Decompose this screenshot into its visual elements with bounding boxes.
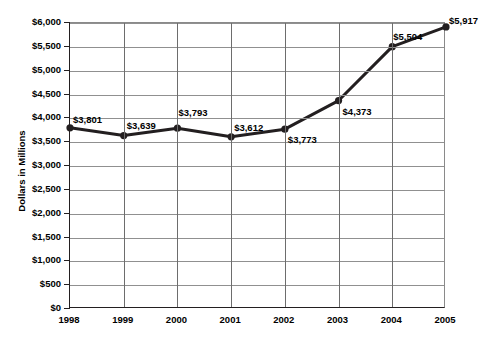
y-axis-tick-mark	[64, 284, 70, 285]
y-axis-tick-label: $2,500	[3, 183, 61, 194]
data-point-label: $3,801	[73, 114, 102, 125]
data-point-label: $3,612	[234, 122, 263, 133]
line-chart: Dollars in Millions $0$500$1,000$1,500$2…	[0, 0, 486, 342]
y-gridline	[70, 71, 444, 72]
y-gridline	[70, 261, 444, 262]
data-point-label: $5,504	[393, 31, 422, 42]
y-axis-tick-mark	[64, 213, 70, 214]
y-axis-tick-mark	[64, 46, 70, 47]
x-axis-tick-label: 2005	[420, 314, 470, 325]
x-gridline	[392, 23, 393, 307]
y-gridline	[70, 47, 444, 48]
y-axis-tick-mark	[64, 117, 70, 118]
y-gridline	[70, 166, 444, 167]
y-axis-tick-label: $500	[3, 278, 61, 289]
x-gridline	[231, 23, 232, 307]
data-point-label: $4,373	[343, 106, 372, 117]
y-axis-tick-label: $0	[3, 302, 61, 313]
y-axis-tick-mark	[64, 94, 70, 95]
y-axis-tick-label: $3,500	[3, 135, 61, 146]
y-gridline	[70, 190, 444, 191]
y-gridline	[70, 23, 444, 24]
x-axis-tick-label: 1998	[44, 314, 94, 325]
y-axis-tick-mark	[64, 260, 70, 261]
y-axis-tick-mark	[64, 22, 70, 23]
y-axis-tick-mark	[64, 70, 70, 71]
y-axis-tick-mark	[64, 189, 70, 190]
y-axis-tick-label: $5,500	[3, 40, 61, 51]
y-axis-tick-label: $5,000	[3, 64, 61, 75]
y-axis-tick-label: $2,000	[3, 207, 61, 218]
x-gridline	[339, 23, 340, 307]
y-axis-tick-mark	[64, 237, 70, 238]
x-axis-tick-label: 2004	[366, 314, 416, 325]
x-gridline	[177, 23, 178, 307]
data-point-label: $3,773	[288, 134, 317, 145]
data-point-label: $5,917	[449, 15, 478, 26]
y-axis-tick-mark	[64, 165, 70, 166]
y-gridline	[70, 95, 444, 96]
x-axis-tick-label: 2002	[259, 314, 309, 325]
y-axis-tick-label: $1,000	[3, 254, 61, 265]
y-axis-tick-label: $4,000	[3, 111, 61, 122]
x-axis-tick-label: 2003	[313, 314, 363, 325]
y-axis-tick-label: $4,500	[3, 88, 61, 99]
y-axis-tick-label: $3,000	[3, 159, 61, 170]
y-gridline	[70, 214, 444, 215]
x-axis-tick-label: 2001	[205, 314, 255, 325]
y-axis-tick-mark	[64, 308, 70, 309]
data-point-label: $3,639	[127, 120, 156, 131]
y-axis-tick-label: $1,500	[3, 231, 61, 242]
y-axis-title: Dollars in Millions	[14, 0, 28, 342]
x-axis-tick-label: 1999	[98, 314, 148, 325]
x-axis-tick-label: 2000	[151, 314, 201, 325]
data-point-label: $3,793	[178, 107, 207, 118]
y-gridline	[70, 238, 444, 239]
y-axis-tick-label: $6,000	[3, 16, 61, 27]
x-gridline	[285, 23, 286, 307]
x-gridline	[124, 23, 125, 307]
y-gridline	[70, 142, 444, 143]
y-gridline	[70, 285, 444, 286]
y-axis-tick-mark	[64, 141, 70, 142]
plot-area	[69, 22, 445, 308]
